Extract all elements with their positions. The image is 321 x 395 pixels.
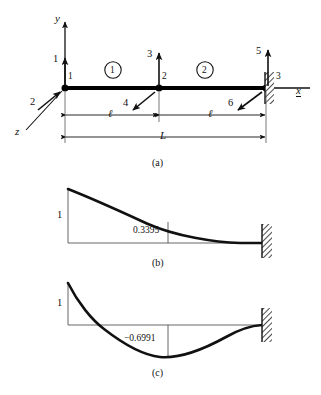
node-1-label: 1	[68, 72, 73, 82]
panel-c-curve	[68, 283, 262, 357]
caption-b: (b)	[152, 258, 164, 268]
dof-4-label: 4	[123, 98, 128, 109]
panel-c-support-hatch	[262, 308, 272, 342]
panel-b-geometry	[68, 189, 272, 258]
panel-b-curve	[68, 189, 262, 243]
caption-c: (c)	[152, 368, 163, 378]
panel-c-value-label: −0.6991	[124, 334, 155, 344]
dof-1-label: 1	[53, 54, 58, 65]
dof-2-arrow	[38, 92, 60, 110]
panel-a-geometry	[26, 22, 310, 143]
element-1-label: 1	[110, 66, 115, 76]
dof-5-label: 5	[256, 46, 261, 57]
element-2-label: 2	[202, 66, 207, 76]
panel-c-ordinate-label: 1	[57, 298, 62, 309]
z-axis-label: z	[15, 126, 19, 137]
node-2-label: 2	[162, 72, 167, 82]
dof-4-arrow	[133, 92, 155, 110]
panel-b-support-hatch	[262, 224, 272, 258]
dimension-total-label: L	[160, 130, 166, 141]
figure-vector-layer	[0, 0, 321, 395]
dof-6-label: 6	[228, 98, 233, 109]
node-3-label: 3	[276, 72, 281, 82]
caption-a: (a)	[152, 158, 163, 168]
dof-2-label: 2	[30, 97, 35, 108]
y-axis-label: y	[55, 13, 60, 24]
dof-6-arrow	[238, 92, 262, 110]
x-axis-label: x	[296, 85, 301, 97]
panel-b-ordinate-label: 1	[57, 210, 62, 221]
panel-b-value-label: 0.3395	[133, 226, 159, 236]
dimension-left-label: ℓ	[108, 109, 112, 120]
figure-root: y x z 1 2 3 4 5 6 1 2 3 1 2 ℓ ℓ L (a) 1 …	[0, 0, 321, 395]
dof-3-label: 3	[147, 49, 152, 60]
panel-c-geometry	[68, 283, 272, 357]
dimension-right-label: ℓ	[208, 109, 212, 120]
